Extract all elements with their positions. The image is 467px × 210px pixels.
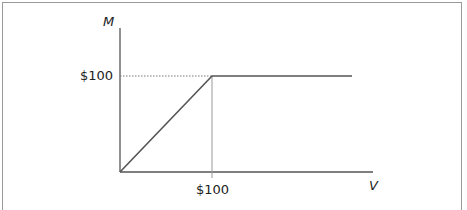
y-axis-label: M	[103, 14, 114, 29]
y-tick-label: $100	[80, 68, 113, 83]
x-axis-label: V	[369, 178, 378, 193]
x-tick-label: $100	[196, 182, 229, 197]
m-v-curve	[120, 76, 352, 172]
chart-plot	[0, 0, 467, 210]
